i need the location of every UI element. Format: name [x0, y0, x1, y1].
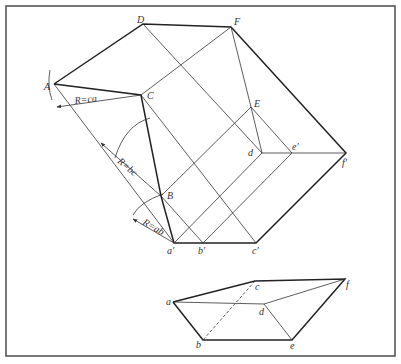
label-e-prime: e′ — [292, 141, 299, 152]
label-e: e — [290, 340, 295, 351]
label-B: B — [167, 190, 173, 201]
label-f: f — [346, 279, 350, 290]
line-E-e — [251, 107, 292, 153]
prism-development-figure: D F A C E B d e′ f′ a′ b′ c′ R=ca R=bc R… — [0, 0, 401, 364]
label-c: c — [255, 281, 260, 292]
label-d: d — [248, 147, 254, 158]
arc-R-ab — [133, 194, 163, 215]
label-F: F — [233, 16, 241, 27]
development-outline — [54, 24, 346, 243]
label-c-prime: c′ — [252, 245, 259, 256]
line-C-c — [141, 95, 256, 243]
label-D: D — [136, 14, 145, 25]
line-a-d — [173, 302, 264, 304]
label-d: d — [259, 306, 265, 317]
line-e-b — [203, 153, 292, 243]
line-d-f — [264, 279, 345, 304]
line-D-d — [143, 24, 262, 153]
label-R-ab: R=ab — [140, 216, 166, 237]
label-E: E — [253, 98, 260, 109]
label-b: b — [196, 339, 201, 350]
figure-frame — [6, 6, 395, 356]
label-R-ca: R=ca — [73, 92, 97, 106]
pictorial-view: a b c d e f — [166, 279, 350, 351]
radius-ca-arrow — [57, 95, 141, 107]
label-a: a — [166, 296, 171, 307]
label-C: C — [147, 90, 154, 101]
line-E-B — [161, 107, 251, 196]
line-c-b-hidden — [203, 281, 255, 340]
label-A: A — [43, 81, 51, 92]
label-b-prime: b′ — [198, 245, 206, 256]
line-A-a — [54, 84, 174, 243]
line-d-a — [174, 153, 262, 243]
line-d-e — [264, 304, 292, 340]
line-F-C — [141, 27, 231, 95]
label-f-prime: f′ — [342, 157, 348, 168]
development-view: D F A C E B d e′ f′ a′ b′ c′ R=ca R=bc R… — [43, 14, 348, 256]
label-a-prime: a′ — [167, 245, 175, 256]
diagram-canvas: D F A C E B d e′ f′ a′ b′ c′ R=ca R=bc R… — [0, 0, 401, 364]
arc-R-bc — [115, 118, 150, 158]
